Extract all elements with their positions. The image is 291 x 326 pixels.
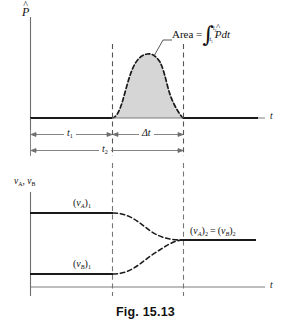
figure-caption: Fig. 15.13 xyxy=(0,305,291,319)
dimension-label-t2: t2 xyxy=(99,144,111,154)
lower-y-axis-label: vA, vB xyxy=(14,177,35,187)
integral-lower-limit: t1 xyxy=(209,38,213,42)
p-hat-accent: ^ xyxy=(23,0,28,10)
dimension-label-t1: t1 xyxy=(64,128,76,138)
curve-label-va1: (vA)1 xyxy=(73,198,91,208)
label-vb: vB xyxy=(27,176,35,186)
curve-va-transition xyxy=(113,213,183,240)
integral-sign: ∫ t2 t1 xyxy=(202,28,213,43)
area-annotation-prefix: Area = xyxy=(172,28,202,40)
label-separator: , xyxy=(22,176,24,186)
integrand-differential: dt xyxy=(222,28,231,40)
upper-x-axis-label: t xyxy=(270,112,273,122)
curve-label-merged: (vA)2=(vB)2 xyxy=(190,226,236,236)
curve-label-vb1: (vB)1 xyxy=(73,259,91,269)
lower-x-axis-label: t xyxy=(270,281,273,291)
integrand-p-hat: ^ P xyxy=(215,29,222,40)
upper-y-axis-label: ^ P xyxy=(22,6,29,18)
figure-15-13 xyxy=(0,0,291,326)
dimension-label-delta-t: Δt xyxy=(139,128,154,138)
curve-vb-transition xyxy=(113,240,183,274)
area-leader-line xyxy=(154,40,172,56)
area-annotation: Area = ∫ t2 t1 ^ P dt xyxy=(172,28,230,43)
impulse-shaded-area xyxy=(112,54,183,118)
